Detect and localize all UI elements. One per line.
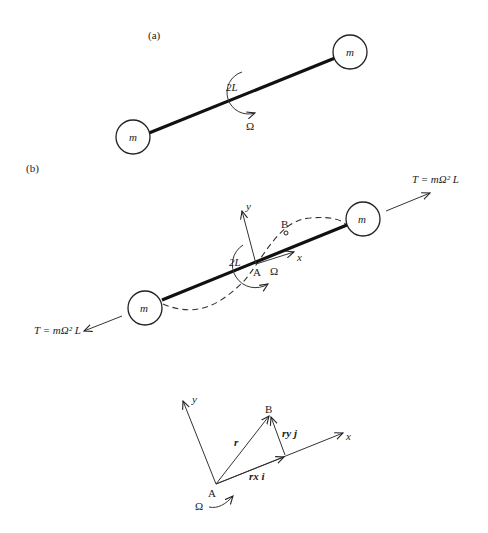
mass-right-a-label: m bbox=[346, 46, 354, 58]
tension-label-right: T = mΩ² L bbox=[412, 173, 459, 185]
panel-b: (b) m m y x B A 2L Ω T = mΩ² L T = mΩ² L bbox=[26, 162, 459, 336]
y-axis-b bbox=[242, 211, 256, 264]
vector-rx-label: rx i bbox=[249, 470, 266, 482]
y-axis-b-label: y bbox=[245, 200, 251, 212]
point-a-label: A bbox=[253, 266, 261, 278]
omega-label-a: Ω bbox=[246, 120, 254, 132]
length-label-a: 2L bbox=[226, 81, 238, 93]
mass-right-b-label: m bbox=[358, 213, 366, 225]
panel-b-label: (b) bbox=[26, 162, 39, 175]
x-axis-b-label: x bbox=[296, 251, 302, 263]
panel-c: y x r rx i ry j B A Ω bbox=[183, 393, 351, 512]
tension-arrow-left bbox=[84, 316, 122, 331]
figure-canvas: (a) m m 2L Ω (b) m m y x B A 2L Ω T = mΩ… bbox=[0, 0, 488, 533]
x-axis-c-label: x bbox=[345, 430, 351, 442]
rod-a bbox=[149, 58, 335, 133]
omega-label-b: Ω bbox=[270, 265, 278, 277]
vector-ry-label: ry j bbox=[282, 427, 298, 439]
panel-a: (a) m m 2L Ω bbox=[116, 29, 367, 154]
y-axis-c-label: y bbox=[191, 393, 197, 405]
rod-b bbox=[162, 225, 347, 300]
mass-left-b-label: m bbox=[140, 302, 148, 314]
panel-a-label: (a) bbox=[148, 29, 161, 42]
tension-label-left: T = mΩ² L bbox=[34, 324, 81, 336]
y-axis-c bbox=[183, 401, 216, 484]
length-label-b: 2L bbox=[229, 256, 241, 268]
point-b-marker bbox=[284, 231, 288, 235]
point-b-c-label: B bbox=[265, 403, 272, 415]
mass-left-a-label: m bbox=[129, 131, 137, 143]
point-b-label: B bbox=[281, 218, 288, 230]
omega-label-c: Ω bbox=[195, 500, 203, 512]
point-a-c-label: A bbox=[208, 487, 216, 499]
tension-arrow-right bbox=[386, 193, 430, 211]
vector-r-label: r bbox=[234, 436, 239, 448]
